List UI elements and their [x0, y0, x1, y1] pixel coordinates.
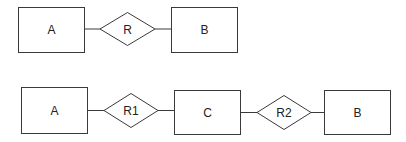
er-diagram: A R B A R1 C R2 B: [0, 0, 406, 142]
relationship-r2-label: R2: [276, 106, 292, 120]
row-binary-relationship: A R B: [19, 8, 238, 53]
entity-a-2-label: A: [50, 104, 58, 118]
entity-b-2-label: B: [353, 106, 361, 120]
relationship-r-label: R: [123, 23, 132, 37]
entity-a-label: A: [47, 23, 55, 37]
row-decomposed-relationship: A R1 C R2 B: [22, 88, 391, 135]
entity-c-label: C: [203, 106, 212, 120]
entity-b-label: B: [200, 23, 208, 37]
relationship-r1-label: R1: [123, 104, 139, 118]
